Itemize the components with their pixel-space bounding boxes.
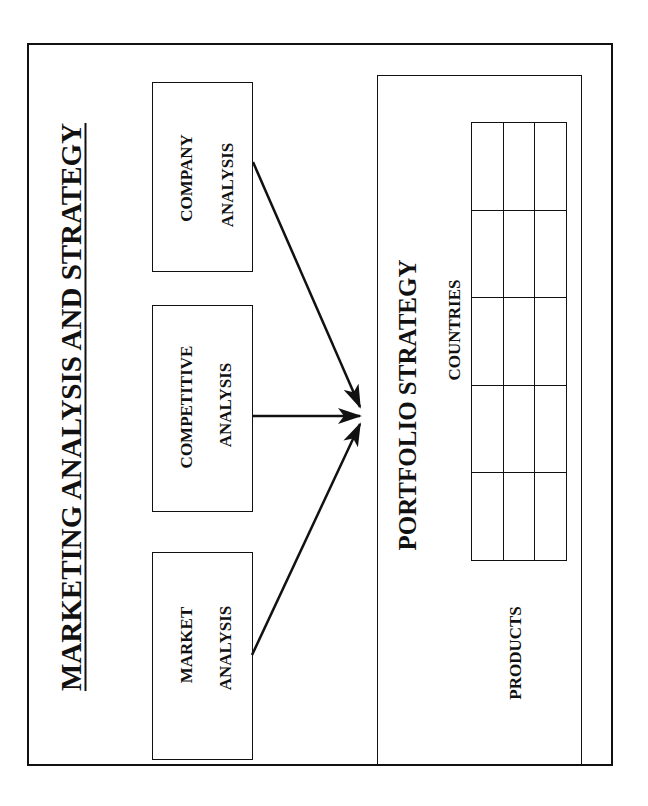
countries-axis-label: COUNTRIES [445,279,465,380]
matrix-cell [503,473,535,561]
matrix-cell [503,123,535,211]
matrix-cell [503,210,535,298]
company-analysis-box: COMPANY ANALYSIS [152,82,253,272]
matrix-cell [472,473,504,561]
matrix-row [472,298,567,386]
matrix-cell [472,298,504,386]
products-axis-label: PRODUCTS [506,606,526,700]
competitive-analysis-label-line1: COMPETITIVE [178,346,195,469]
market-analysis-box: MARKET ANALYSIS [152,552,253,760]
matrix-cell [472,385,504,473]
matrix-cell [472,123,504,211]
competitive-analysis-box: COMPETITIVE ANALYSIS [152,305,253,512]
matrix-cell [503,298,535,386]
competitive-analysis-label-line2: ANALYSIS [217,363,234,447]
market-analysis-label-line2: ANALYSIS [217,606,234,690]
matrix-cell [535,385,567,473]
matrix-cell [503,385,535,473]
portfolio-matrix [471,122,567,561]
matrix-cell [535,210,567,298]
matrix-cell [535,473,567,561]
portfolio-strategy-title: PORTFOLIO STRATEGY [394,259,422,550]
company-analysis-label-line1: COMPANY [178,134,195,222]
matrix-row [472,385,567,473]
matrix-row [472,123,567,211]
matrix-cell [472,210,504,298]
market-analysis-label-line1: MARKET [178,607,195,684]
company-analysis-label-line2: ANALYSIS [219,143,236,227]
diagram-title: MARKETING ANALYSIS AND STRATEGY [55,123,88,691]
matrix-cell [535,298,567,386]
matrix-row [472,473,567,561]
matrix-cell [535,123,567,211]
matrix-row [472,210,567,298]
